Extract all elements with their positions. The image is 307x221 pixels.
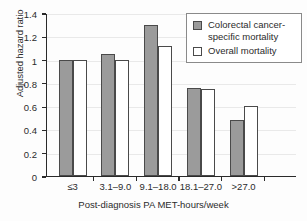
- legend-label: Colorectal cancer-specific mortality: [208, 19, 296, 42]
- y-axis-tick: [42, 13, 46, 14]
- x-axis-tick-label: ≤3: [67, 181, 78, 192]
- legend-swatch-open-icon: [193, 47, 202, 56]
- legend-swatch-filled-icon: [193, 21, 202, 30]
- y-axis-tick: [42, 60, 46, 61]
- bar-colorectal: [144, 25, 158, 176]
- bar-overall: [201, 89, 215, 176]
- bar-group: [94, 14, 137, 176]
- x-axis-tick-label: 3.1–9.0: [100, 181, 132, 192]
- chart-figure: Adjusted hazard ratio 00.20.40.60.811.21…: [0, 0, 307, 221]
- y-axis-tick: [42, 37, 46, 38]
- x-axis-tick-label: >27.0: [232, 181, 256, 192]
- y-axis-tick-label: 0.6: [0, 102, 37, 113]
- bar-colorectal: [230, 120, 244, 176]
- bar-overall: [73, 60, 87, 176]
- bar-overall: [115, 60, 129, 176]
- y-axis-tick: [42, 83, 46, 84]
- bar-colorectal: [101, 54, 115, 176]
- legend-label: Overall mortality: [208, 45, 277, 57]
- bar-group: [137, 14, 180, 176]
- y-axis-tick: [42, 107, 46, 108]
- y-axis-tick-label: 1: [0, 55, 37, 66]
- legend-item-overall: Overall mortality: [193, 45, 296, 57]
- chart-legend: Colorectal cancer-specific mortality Ove…: [186, 13, 302, 63]
- bar-overall: [158, 46, 172, 176]
- y-axis-tick-label: 0.2: [0, 148, 37, 159]
- x-axis-labels: ≤33.1–9.09.1–18.018.1–27.0>27.0: [46, 181, 296, 195]
- y-axis-tick: [42, 130, 46, 131]
- x-axis-tick-label: 9.1–18.0: [140, 181, 177, 192]
- bar-overall: [244, 106, 258, 176]
- x-axis-title: Post-diagnosis PA MET-hours/week: [0, 199, 307, 210]
- y-axis-tick-label: 1.2: [0, 32, 37, 43]
- y-axis-tick-label: 0: [0, 172, 37, 183]
- y-axis-tick: [42, 153, 46, 154]
- bar-colorectal: [59, 60, 73, 176]
- y-axis-tick-label: 1.4: [0, 9, 37, 20]
- y-axis-tick-label: 0.4: [0, 125, 37, 136]
- legend-item-colorectal: Colorectal cancer-specific mortality: [193, 19, 296, 42]
- bar-colorectal: [187, 88, 201, 176]
- y-axis-tick-label: 0.8: [0, 78, 37, 89]
- x-axis-tick-label: 18.1–27.0: [180, 181, 222, 192]
- y-axis-tick: [42, 176, 46, 177]
- bar-group: [51, 14, 94, 176]
